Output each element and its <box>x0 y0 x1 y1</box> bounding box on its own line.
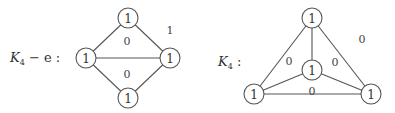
svg-text:K4 − e :: K4 − e : <box>9 50 60 67</box>
diagram-canvas: K4 − e : 1001111 K4 : 00001111 <box>0 0 395 113</box>
node-label: 1 <box>308 64 316 78</box>
face-label: 0 <box>332 56 339 69</box>
node-label: 1 <box>82 52 90 66</box>
face-label: 0 <box>309 85 316 98</box>
face-label: 0 <box>124 68 131 81</box>
graph-k4-minus-e: 1001111 <box>76 8 180 108</box>
node-label: 1 <box>124 12 132 26</box>
face-label: 1 <box>167 24 174 37</box>
node-label: 1 <box>124 92 132 106</box>
edge-top-br <box>312 18 371 94</box>
node-label: 1 <box>250 88 258 102</box>
face-label: 0 <box>286 55 293 68</box>
svg-text:K4 :: K4 : <box>217 54 241 71</box>
face-label: 0 <box>359 33 366 46</box>
node-label: 1 <box>166 52 174 66</box>
graph-k4-minus-e-title: K4 − e : <box>9 50 60 67</box>
edge-top-bl <box>254 18 312 94</box>
graph-k4: 00001111 <box>244 8 381 104</box>
node-label: 1 <box>367 88 375 102</box>
graph-k4-title: K4 : <box>217 54 241 71</box>
node-label: 1 <box>308 12 316 26</box>
face-label: 0 <box>124 35 131 48</box>
